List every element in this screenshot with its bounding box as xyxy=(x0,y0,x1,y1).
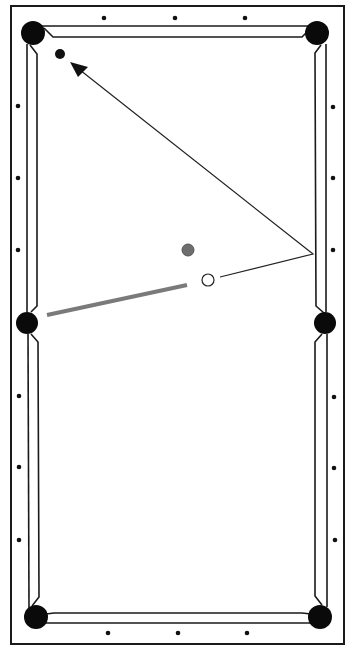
cushion-lines xyxy=(20,15,334,635)
diamond-icon xyxy=(17,394,22,399)
diamond-icon xyxy=(331,248,336,253)
pocket-side-right xyxy=(314,312,336,334)
diamond-icon xyxy=(102,16,107,21)
diamond-icon xyxy=(331,105,336,110)
pockets xyxy=(16,21,336,629)
diamond-icon xyxy=(16,248,21,253)
pocket-top-left xyxy=(21,21,45,45)
diamond-icon xyxy=(16,104,21,109)
diamond-icon xyxy=(16,176,21,181)
object-ball xyxy=(55,49,65,59)
diamond-icon xyxy=(176,631,181,636)
pool-table xyxy=(0,0,352,655)
diamond-icon xyxy=(17,538,22,543)
diamond-icon xyxy=(332,395,337,400)
rail-outline xyxy=(20,15,334,635)
left-rail-bottom-inner xyxy=(31,334,39,606)
diamonds xyxy=(16,16,338,636)
diamond-icon xyxy=(173,16,178,21)
cue-ball xyxy=(202,274,214,286)
target-ball xyxy=(182,244,194,256)
pocket-side-left xyxy=(16,312,38,334)
left-rail-bottom-outer xyxy=(28,334,29,608)
right-rail-bottom-inner xyxy=(315,334,322,605)
right-rail-top-inner xyxy=(315,45,324,313)
diamond-icon xyxy=(331,176,336,181)
pocket-bottom-right xyxy=(308,605,332,629)
table-outer-frame xyxy=(11,6,344,644)
diamond-icon xyxy=(332,466,337,471)
diamond-icon xyxy=(333,538,338,543)
diamond-icon xyxy=(245,631,250,636)
diamond-icon xyxy=(17,465,22,470)
billiards-diagram xyxy=(0,0,352,655)
diamond-icon xyxy=(243,16,248,21)
top-rail-inner xyxy=(44,28,311,37)
left-rail-top-inner xyxy=(30,45,37,312)
bottom-rail-inner xyxy=(46,613,311,614)
cue-stick xyxy=(47,285,187,315)
diamond-icon xyxy=(106,631,111,636)
pocket-top-right xyxy=(305,21,329,45)
pocket-bottom-left xyxy=(24,605,48,629)
aim-line xyxy=(80,70,313,277)
